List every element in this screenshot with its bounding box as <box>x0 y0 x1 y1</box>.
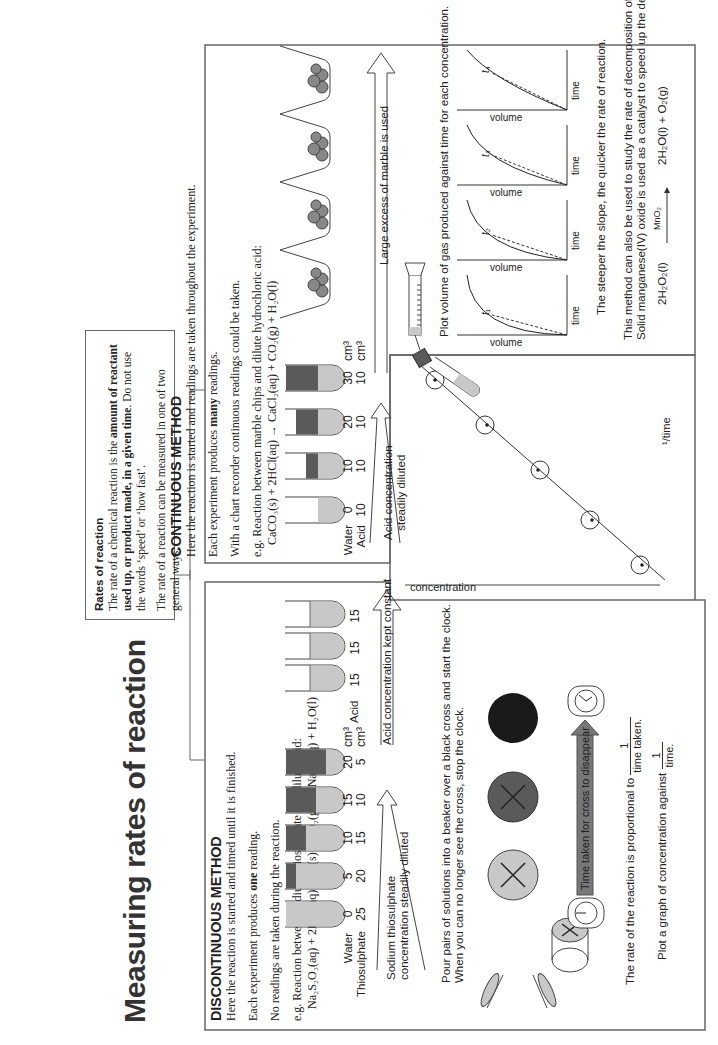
water-label: Water <box>342 933 355 997</box>
cont-line2: Each experiment produces many readings. <box>206 57 221 557</box>
time-label-3: time <box>570 156 581 175</box>
h2o2-equation-lhs: 2H₂O₂(l) <box>656 262 668 305</box>
continuous-section: CONTINUOUS METHOD Here the reaction is s… <box>168 57 280 557</box>
time-label-4: time <box>570 81 581 100</box>
volume-label-4: volume <box>490 112 522 123</box>
acid-diluted-2: steadily diluted <box>395 445 408 540</box>
discontinuous-heading: DISCONTINUOUS METHOD <box>208 591 224 1021</box>
graph-4 <box>457 50 567 110</box>
tangent-t3: t₃ <box>480 150 491 157</box>
rate-text: The rate of the reaction is proportional… <box>624 778 636 985</box>
disc-line2-b: reading. <box>246 831 260 873</box>
graph-2 <box>457 200 567 260</box>
volume-label-2: volume <box>490 262 522 273</box>
graph-3 <box>457 125 567 185</box>
acid-tubes <box>285 601 345 691</box>
tangent-t4: t₄ <box>480 66 491 73</box>
plot-text: Plot a graph of concentration against <box>656 773 668 960</box>
tangent-t2: t₂ <box>480 228 491 235</box>
frac-den: time taken. <box>631 717 643 775</box>
marble-chip-flasks-icon <box>280 46 330 318</box>
cross-experiment-diagram <box>475 590 615 1030</box>
thio-label-2: concentration steadily diluted <box>398 832 411 980</box>
cross-fading-circle <box>488 772 538 822</box>
marble-excess-label: Large excess of marble is used <box>378 106 390 265</box>
rate-fraction: 1time taken. <box>618 717 643 775</box>
disc-line2-a: Each experiment produces <box>246 891 260 1021</box>
thio-diluted-label: Sodium thiosulphate concentration steadi… <box>385 832 411 980</box>
volume-label-1: volume <box>490 337 522 348</box>
instr-1: Pour pairs of solutions into a beaker ov… <box>440 604 453 983</box>
cont-line1: Here the reaction is started and reading… <box>184 57 199 557</box>
frac-num: 1 <box>618 717 631 775</box>
graph-1 <box>457 275 567 335</box>
volume-label-3: volume <box>490 187 522 198</box>
instr-2: When you can no longer see the cross, st… <box>453 604 466 983</box>
cont-line2-bold: many <box>206 398 220 427</box>
cont-line3: With a chart recorder continuous reading… <box>228 57 243 557</box>
acid-value: 15 <box>348 603 362 629</box>
rotated-page: Measuring rates of reaction Rates of rea… <box>0 0 718 1045</box>
acid-diluted-label: Acid concentration steadily diluted <box>382 445 408 540</box>
acid-diluted-1: Acid concentration <box>382 445 395 540</box>
acid-dilution-tubes <box>285 365 345 523</box>
spacer <box>270 594 271 595</box>
h2o2-text: This method can also be used to study th… <box>622 0 648 340</box>
acid-value: 15 <box>348 635 362 661</box>
pouring-flasks-icon <box>478 918 588 1008</box>
cross-hidden-circle <box>488 693 538 743</box>
plot-volume-instruction: Plot volume of gas produced against time… <box>438 6 450 337</box>
continuous-heading: CONTINUOUS METHOD <box>168 57 184 557</box>
h2o2-equation-rhs: 2H₂O(l) + O₂(g) <box>656 86 668 165</box>
disc-line2: Each experiment produces one reading. <box>246 591 261 1021</box>
time-arrow-label: Time taken for cross to disappear <box>579 727 591 890</box>
test-tube-icon <box>395 345 485 405</box>
disc-line1: Here the reaction is started and timed u… <box>224 591 239 1021</box>
time-label-2: time <box>570 231 581 250</box>
concentration-axis-label: concentration <box>410 581 476 593</box>
rate-proportional: The rate of the reaction is proportional… <box>618 717 643 985</box>
h2o2-line1: This method can also be used to study th… <box>622 0 635 340</box>
h2o2-line2: Solid manganese(IV) oxide is used as a c… <box>635 0 648 340</box>
thiosulphate-tubes <box>285 749 345 927</box>
mno2-catalyst: MnO₂ <box>652 207 662 230</box>
water-label: Water <box>342 525 355 557</box>
inverse-time-axis-label: ¹/time <box>660 418 672 446</box>
acid-constant-label: Acid concentration kept constant <box>381 579 393 745</box>
disc-instructions: Pour pairs of solutions into a beaker ov… <box>440 604 466 983</box>
cross-visible-circle <box>488 850 538 900</box>
continuous-tubes <box>270 43 350 563</box>
plot-fraction: 1time. <box>650 742 675 770</box>
cont-line2-a: Each experiment produces <box>206 427 220 557</box>
thio-label-1: Sodium thiosulphate <box>385 832 398 980</box>
clock-start-icon <box>568 898 604 928</box>
clock-stop-icon <box>568 686 604 716</box>
acid-row-label: Acid <box>348 701 360 723</box>
plot-graph-text: Plot a graph of concentration against 1t… <box>650 742 675 960</box>
frac-den: time. <box>663 742 675 770</box>
cont-eg: e.g. Reaction between marble chips and d… <box>250 57 265 557</box>
slope-text: The steeper the slope, the quicker the r… <box>595 39 607 315</box>
acid-value: 15 <box>348 667 362 693</box>
frac-num: 1 <box>650 742 663 770</box>
disc-line2-bold: one <box>246 873 260 891</box>
tangent-t1: t₁ <box>480 309 491 315</box>
reaction-arrow-icon <box>662 185 672 245</box>
cont-line2-b: readings. <box>206 351 220 398</box>
time-label-1: time <box>570 306 581 325</box>
